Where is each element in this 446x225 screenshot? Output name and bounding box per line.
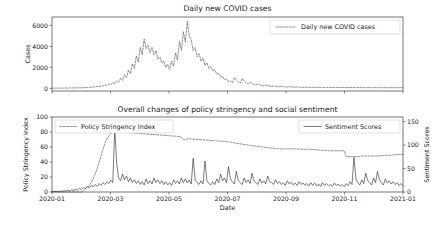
y-tick-label-left: 100: [36, 113, 48, 120]
legend-label-sentiment: Sentiment Scores: [325, 123, 382, 131]
y-tick-label-left: 60: [40, 143, 48, 150]
chart-title-bottom: Overall changes of policy stringency and…: [118, 105, 338, 114]
chart-title-top: Daily new COVID cases: [184, 4, 272, 13]
y-tick-label-left: 20: [40, 173, 48, 180]
x-tick-label: 2020-09: [273, 195, 299, 202]
y-tick-label: 4000: [32, 43, 48, 50]
covid-policy-sentiment-figure: Daily new COVID cases0200040006000CasesD…: [0, 0, 446, 225]
y-axis-label-left: Policy Stringency Index: [22, 117, 30, 192]
series-sentiment-scores: [52, 129, 403, 192]
x-tick-label: 2020-11: [332, 195, 358, 202]
y-tick-label: 0: [44, 85, 48, 92]
x-tick-label: 2020-07: [215, 195, 241, 202]
x-tick-label: 2021-01: [390, 195, 416, 202]
figure-canvas: Daily new COVID cases0200040006000CasesD…: [0, 0, 446, 225]
y-tick-label-right: 50: [407, 165, 415, 172]
y-tick-label: 6000: [32, 22, 48, 29]
legend-label-top: Daily new COVID cases: [301, 23, 376, 31]
y-tick-label-right: 150: [407, 118, 419, 125]
series-policy-stringency-index: [52, 132, 403, 192]
y-axis-label-right: Sentiment Scores: [423, 126, 431, 183]
x-tick-label: 2020-05: [156, 195, 182, 202]
x-tick-label: 2020-01: [39, 195, 65, 202]
y-tick-label-left: 80: [40, 128, 48, 135]
y-axis-label-top: Cases: [24, 44, 32, 64]
y-tick-label: 2000: [32, 64, 48, 71]
y-tick-label-right: 100: [407, 141, 419, 148]
legend-label-stringency: Policy Stringency Index: [81, 123, 156, 131]
y-tick-label-left: 40: [40, 158, 48, 165]
x-axis-label: Date: [220, 204, 235, 212]
x-tick-label: 2020-03: [98, 195, 124, 202]
